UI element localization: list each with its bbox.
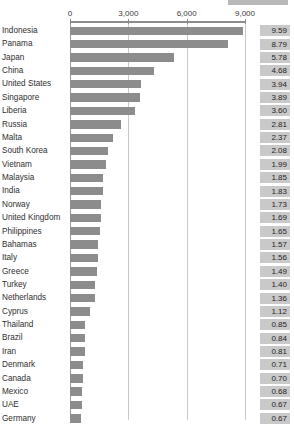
x-tick-label: 6,000 (177, 9, 197, 18)
chart-row: Iran0.81 (0, 345, 294, 359)
value-label: 1.73 (260, 199, 290, 210)
bar (70, 120, 121, 128)
chart-row: Thailand0.85 (0, 318, 294, 332)
category-label: United States (2, 78, 51, 89)
x-tick-mark (245, 19, 246, 24)
value-label: 0.70 (260, 373, 290, 384)
plot-area: Indonesia9.59Panama8.79Japan5.78China4.6… (0, 24, 294, 425)
chart-row: Germany0.67 (0, 412, 294, 426)
bar (70, 40, 228, 48)
category-label: Singapore (2, 92, 39, 103)
value-label: 9.59 (260, 25, 290, 36)
chart-row: China4.68 (0, 64, 294, 78)
bar (70, 307, 90, 315)
value-label: 0.68 (260, 386, 290, 397)
chart-row: UAE0.67 (0, 398, 294, 412)
category-label: Canada (2, 373, 31, 384)
category-label: Turkey (2, 279, 27, 290)
chart-row: Norway1.73 (0, 198, 294, 212)
bar (70, 334, 85, 342)
bar (70, 107, 135, 115)
bar (70, 374, 83, 382)
value-label: 5.78 (260, 52, 290, 63)
value-label: 1.49 (260, 266, 290, 277)
bar (70, 281, 95, 289)
chart-row: Japan5.78 (0, 51, 294, 65)
value-label: 2.08 (260, 145, 290, 156)
category-label: Vietnam (2, 159, 32, 170)
value-label: 1.83 (260, 186, 290, 197)
category-label: United Kingdom (2, 212, 60, 223)
category-label: Malaysia (2, 172, 34, 183)
value-label: 1.40 (260, 279, 290, 290)
bar (70, 174, 103, 182)
bar (70, 361, 83, 369)
x-tick-label: 3,000 (118, 9, 138, 18)
chart-row: Mexico0.68 (0, 385, 294, 399)
chart-row: Netherlands1.36 (0, 291, 294, 305)
bar (70, 200, 101, 208)
bar (70, 53, 174, 61)
x-tick-label: 0 (68, 9, 72, 18)
chart-row: Italy1.56 (0, 251, 294, 265)
category-label: Iran (2, 346, 16, 357)
chart-row: Brazil0.84 (0, 331, 294, 345)
bar (70, 240, 98, 248)
category-label: Japan (2, 52, 24, 63)
bar (70, 80, 141, 88)
bar (70, 321, 85, 329)
category-label: Cyprus (2, 306, 28, 317)
category-label: Bahamas (2, 239, 37, 250)
value-label: 1.99 (260, 159, 290, 170)
bar (70, 387, 82, 395)
bar (70, 414, 81, 422)
value-label: 4.68 (260, 65, 290, 76)
value-label: 1.56 (260, 252, 290, 263)
chart-row: Vietnam1.99 (0, 158, 294, 172)
chart-row: Canada0.70 (0, 372, 294, 386)
bar (70, 93, 140, 101)
category-label: Liberia (2, 105, 27, 116)
chart-row: Malta2.37 (0, 131, 294, 145)
category-label: China (2, 65, 23, 76)
chart-row: Denmark0.71 (0, 358, 294, 372)
category-label: Panama (2, 38, 33, 49)
category-label: Norway (2, 199, 30, 210)
value-label: 1.57 (260, 239, 290, 250)
header-band (228, 0, 288, 5)
horizontal-bar-chart: 03,0006,0009,000 Indonesia9.59Panama8.79… (0, 0, 294, 433)
category-label: Greece (2, 266, 29, 277)
chart-row: Bahamas1.57 (0, 238, 294, 252)
value-label: 2.37 (260, 132, 290, 143)
value-label: 0.85 (260, 319, 290, 330)
x-tick-label: 9,000 (235, 9, 255, 18)
category-label: Netherlands (2, 292, 46, 303)
value-label: 1.65 (260, 226, 290, 237)
bar (70, 294, 95, 302)
value-label: 2.81 (260, 119, 290, 130)
bar (70, 147, 108, 155)
value-label: 3.60 (260, 105, 290, 116)
category-label: India (2, 185, 20, 196)
chart-row: India1.83 (0, 184, 294, 198)
bar (70, 227, 100, 235)
chart-row: Philippines1.65 (0, 225, 294, 239)
bar (70, 160, 106, 168)
bar (70, 347, 85, 355)
value-label: 0.67 (260, 413, 290, 424)
value-label: 3.94 (260, 79, 290, 90)
value-label: 0.71 (260, 359, 290, 370)
chart-row: Singapore3.89 (0, 91, 294, 105)
chart-row: United Kingdom1.69 (0, 211, 294, 225)
category-label: Russia (2, 119, 27, 130)
value-label: 3.89 (260, 92, 290, 103)
bar (70, 67, 154, 75)
x-axis-labels: 03,0006,0009,000 (0, 9, 294, 21)
category-label: Germany (2, 413, 36, 424)
category-label: Malta (2, 132, 22, 143)
chart-row: Malaysia1.85 (0, 171, 294, 185)
chart-row: Turkey1.40 (0, 278, 294, 292)
category-label: Brazil (2, 332, 22, 343)
bar (70, 267, 97, 275)
category-label: Thailand (2, 319, 33, 330)
